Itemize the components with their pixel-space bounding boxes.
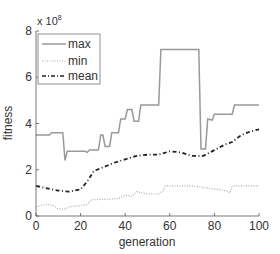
y-tick-label: 4 bbox=[25, 117, 32, 131]
y-tick-label: 0 bbox=[25, 209, 32, 223]
x-tick-label: 100 bbox=[249, 219, 269, 233]
y-tick-label: 8 bbox=[25, 24, 32, 38]
x-tick-label: 40 bbox=[119, 219, 133, 233]
series-line-mean bbox=[36, 129, 259, 191]
y-tick-label: 2 bbox=[25, 163, 32, 177]
y-ticks: 02468 bbox=[25, 24, 39, 223]
x-tick-label: 20 bbox=[74, 219, 88, 233]
fitness-chart: 020406080100 02468 x 108 generation fitn… bbox=[0, 0, 280, 254]
y-tick-label: 6 bbox=[25, 70, 32, 84]
y-axis-label: fitness bbox=[1, 106, 15, 141]
y-multiplier: x 108 bbox=[37, 14, 62, 27]
legend-label-min: min bbox=[68, 54, 87, 68]
legend: max min mean bbox=[38, 34, 100, 84]
legend-label-max: max bbox=[68, 37, 91, 51]
series-line-min bbox=[36, 186, 259, 209]
x-tick-label: 0 bbox=[33, 219, 40, 233]
x-tick-label: 60 bbox=[163, 219, 177, 233]
x-axis-label: generation bbox=[119, 235, 176, 249]
legend-label-mean: mean bbox=[68, 69, 98, 83]
x-tick-label: 80 bbox=[208, 219, 222, 233]
